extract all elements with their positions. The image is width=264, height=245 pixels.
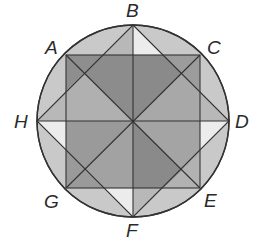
label-b: B <box>126 0 139 21</box>
label-f: F <box>126 220 139 241</box>
label-h: H <box>14 111 28 132</box>
geometry-diagram: A B C D E F G H <box>0 0 264 245</box>
label-e: E <box>204 190 217 211</box>
label-a: A <box>44 37 58 58</box>
label-g: G <box>44 191 59 212</box>
label-c: C <box>207 37 221 58</box>
label-d: D <box>235 111 249 132</box>
